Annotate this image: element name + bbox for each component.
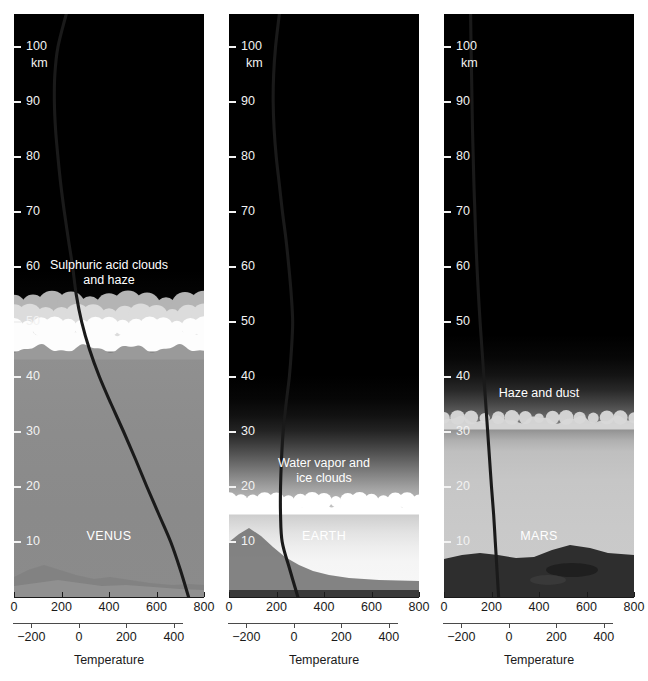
kelvin-label-venus-600: 600 xyxy=(132,600,182,614)
kelvin-axis-line-mars xyxy=(444,597,634,598)
panel-mars: Haze and dustMARS102030405060708090100km xyxy=(444,14,634,597)
celsius-tick-earth--200 xyxy=(246,623,247,628)
altitude-tick-venus-10 xyxy=(14,541,21,543)
temperature-axis-title-mars: Temperature xyxy=(444,653,634,667)
altitude-tick-mars-20 xyxy=(444,486,451,488)
celsius-tick-earth-400 xyxy=(389,623,390,628)
kelvin-label-mars-0: 0 xyxy=(419,600,469,614)
altitude-label-venus-100: 100 xyxy=(26,40,47,53)
kelvin-tick-earth-600 xyxy=(372,592,373,597)
atmosphere-profile-figure: Sulphuric acid cloudsand hazeVENUS102030… xyxy=(0,0,648,681)
temperature-axis-title-venus: Temperature xyxy=(14,653,204,667)
kelvin-label-mars-800: 800 xyxy=(609,600,648,614)
altitude-tick-earth-40 xyxy=(229,376,236,378)
celsius-label-mars-400: 400 xyxy=(579,630,629,644)
altitude-tick-venus-30 xyxy=(14,431,21,433)
altitude-tick-venus-100 xyxy=(14,46,21,48)
kelvin-tick-mars-0 xyxy=(444,592,445,597)
celsius-tick-earth-0 xyxy=(294,623,295,628)
altitude-label-venus-10: 10 xyxy=(26,535,40,548)
altitude-tick-venus-60 xyxy=(14,266,21,268)
kelvin-label-earth-600: 600 xyxy=(347,600,397,614)
altitude-label-mars-80: 80 xyxy=(456,150,470,163)
altitude-label-mars-50: 50 xyxy=(456,315,470,328)
altitude-label-mars-20: 20 xyxy=(456,480,470,493)
planet-label-mars: MARS xyxy=(444,529,634,543)
altitude-tick-earth-10 xyxy=(229,541,236,543)
panel-earth: Water vapor andice cloudsEARTH1020304050… xyxy=(229,14,419,597)
altitude-label-mars-30: 30 xyxy=(456,425,470,438)
celsius-label-mars--200: −200 xyxy=(436,630,486,644)
feature-label-venus: Sulphuric acid cloudsand haze xyxy=(14,258,204,288)
altitude-tick-mars-90 xyxy=(444,101,451,103)
celsius-label-venus-200: 200 xyxy=(101,630,151,644)
celsius-axis-line-mars xyxy=(443,623,613,624)
altitude-label-venus-90: 90 xyxy=(26,95,40,108)
altitude-label-mars-100: 100 xyxy=(456,40,477,53)
altitude-tick-earth-90 xyxy=(229,101,236,103)
celsius-axis-line-earth xyxy=(228,623,398,624)
kelvin-label-earth-0: 0 xyxy=(204,600,254,614)
altitude-label-venus-60: 60 xyxy=(26,260,40,273)
kelvin-axis-line-earth xyxy=(229,597,419,598)
altitude-label-earth-70: 70 xyxy=(241,205,255,218)
altitude-label-venus-50: 50 xyxy=(26,315,40,328)
altitude-label-venus-80: 80 xyxy=(26,150,40,163)
celsius-tick-mars-400 xyxy=(604,623,605,628)
kelvin-tick-earth-200 xyxy=(277,592,278,597)
celsius-label-earth-200: 200 xyxy=(316,630,366,644)
altitude-tick-earth-80 xyxy=(229,156,236,158)
celsius-tick-venus-200 xyxy=(126,623,127,628)
altitude-tick-mars-50 xyxy=(444,321,451,323)
kelvin-label-earth-400: 400 xyxy=(299,600,349,614)
planet-label-venus: VENUS xyxy=(14,529,204,543)
celsius-axis-line-venus xyxy=(13,623,183,624)
altitude-unit-earth: km xyxy=(246,56,263,70)
altitude-tick-mars-30 xyxy=(444,431,451,433)
celsius-label-venus-0: 0 xyxy=(54,630,104,644)
kelvin-label-venus-400: 400 xyxy=(84,600,134,614)
plot-area-earth: Water vapor andice cloudsEARTH xyxy=(229,14,419,597)
altitude-label-mars-70: 70 xyxy=(456,205,470,218)
kelvin-tick-earth-400 xyxy=(324,592,325,597)
kelvin-tick-mars-600 xyxy=(587,592,588,597)
altitude-label-mars-10: 10 xyxy=(456,535,470,548)
altitude-tick-mars-40 xyxy=(444,376,451,378)
altitude-label-earth-90: 90 xyxy=(241,95,255,108)
altitude-tick-earth-70 xyxy=(229,211,236,213)
celsius-label-earth-0: 0 xyxy=(269,630,319,644)
feature-label-earth-line-1: Water vapor and xyxy=(229,456,419,471)
kelvin-tick-venus-400 xyxy=(109,592,110,597)
altitude-tick-venus-50 xyxy=(14,321,21,323)
altitude-tick-earth-20 xyxy=(229,486,236,488)
celsius-label-earth--200: −200 xyxy=(221,630,271,644)
feature-label-earth-line-2: ice clouds xyxy=(229,471,419,486)
kelvin-axis-line-venus xyxy=(14,597,204,598)
celsius-tick-venus-400 xyxy=(174,623,175,628)
kelvin-label-mars-600: 600 xyxy=(562,600,612,614)
altitude-tick-venus-40 xyxy=(14,376,21,378)
altitude-tick-venus-80 xyxy=(14,156,21,158)
altitude-tick-mars-10 xyxy=(444,541,451,543)
altitude-tick-earth-100 xyxy=(229,46,236,48)
altitude-label-earth-80: 80 xyxy=(241,150,255,163)
celsius-tick-venus--200 xyxy=(31,623,32,628)
altitude-unit-venus: km xyxy=(31,56,48,70)
altitude-label-venus-70: 70 xyxy=(26,205,40,218)
temperature-profile-curve-mars xyxy=(444,14,634,597)
feature-label-mars-line-1: Haze and dust xyxy=(444,386,634,401)
feature-label-venus-line-2: and haze xyxy=(14,273,204,288)
feature-label-venus-line-1: Sulphuric acid clouds xyxy=(14,258,204,273)
kelvin-tick-mars-800 xyxy=(634,592,635,597)
altitude-label-earth-20: 20 xyxy=(241,480,255,493)
altitude-label-mars-40: 40 xyxy=(456,370,470,383)
kelvin-tick-earth-800 xyxy=(419,592,420,597)
celsius-label-earth-400: 400 xyxy=(364,630,414,644)
altitude-tick-venus-90 xyxy=(14,101,21,103)
kelvin-tick-venus-800 xyxy=(204,592,205,597)
kelvin-label-earth-200: 200 xyxy=(252,600,302,614)
kelvin-tick-venus-0 xyxy=(14,592,15,597)
celsius-tick-mars-0 xyxy=(509,623,510,628)
celsius-label-venus--200: −200 xyxy=(6,630,56,644)
planet-label-earth: EARTH xyxy=(229,529,419,543)
